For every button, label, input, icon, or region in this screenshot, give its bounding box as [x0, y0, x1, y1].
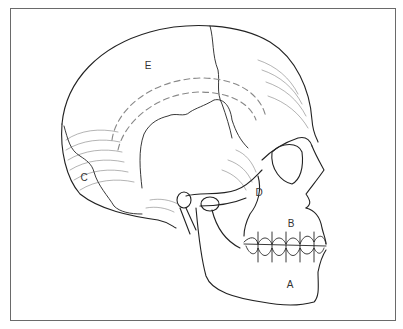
- label-c: C: [80, 173, 87, 183]
- mandible-outline: [196, 208, 326, 305]
- label-e: E: [145, 61, 152, 71]
- label-d: D: [255, 188, 262, 198]
- temporal-line-inner: [118, 92, 256, 150]
- temporal-line: [112, 78, 266, 140]
- mandibular-condyle: [201, 197, 219, 211]
- orbit: [272, 145, 303, 185]
- cranium-outline: [62, 26, 318, 142]
- occipital-outline: [62, 124, 176, 228]
- skull-illustration: [0, 0, 403, 329]
- label-b: B: [288, 219, 295, 229]
- lambdoid-suture: [64, 126, 142, 214]
- zygomatic-arch: [186, 170, 262, 196]
- mandible-ramus-inner: [212, 210, 240, 248]
- zygomatic-arch-lower: [200, 198, 246, 206]
- styloid-process: [180, 208, 196, 234]
- label-a: A: [287, 280, 294, 290]
- brow-ridge: [262, 137, 312, 160]
- nasal-bone: [306, 146, 324, 208]
- teeth: [244, 232, 326, 262]
- mastoid-process: [177, 192, 191, 208]
